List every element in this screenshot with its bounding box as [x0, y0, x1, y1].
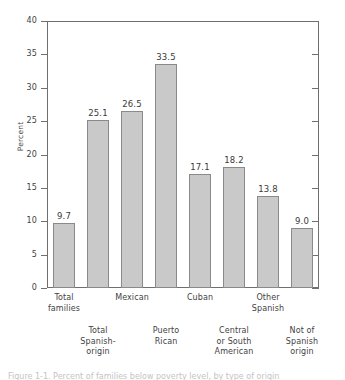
bar	[291, 228, 313, 288]
x-axis-category-label: TotalSpanish-origin	[71, 326, 125, 358]
y-tick-mark-left	[41, 221, 47, 222]
x-axis-category-label: Mexican	[105, 293, 159, 304]
y-tick-mark-left	[41, 188, 47, 189]
x-axis-category-label-line: Rican	[139, 337, 193, 348]
x-axis-category-label-line: origin	[275, 347, 329, 358]
y-tick-mark-right	[312, 21, 319, 22]
bar	[121, 111, 143, 288]
bar	[155, 64, 177, 288]
y-tick-mark-right	[312, 288, 319, 289]
y-tick-mark-right	[312, 54, 319, 55]
y-tick-mark-left	[41, 288, 47, 289]
y-tick-label: 0	[3, 283, 37, 292]
x-axis-category-label-line: Not of	[275, 326, 329, 337]
y-tick-mark-right	[312, 255, 319, 256]
y-tick-mark-left	[41, 255, 47, 256]
x-axis-category-label: Totalfamilies	[37, 293, 91, 314]
x-axis-category-label-line: Spanish	[241, 304, 295, 315]
bar	[189, 174, 211, 288]
y-tick-label: 10	[3, 216, 37, 225]
x-axis-category-label-line: Mexican	[105, 293, 159, 304]
x-axis-category-label-line: Cuban	[173, 293, 227, 304]
x-axis-category-label-line: origin	[71, 347, 125, 358]
y-tick-mark-right	[312, 188, 319, 189]
x-axis-category-label-line: or South	[207, 337, 261, 348]
y-tick-label: 40	[3, 16, 37, 25]
figure-caption-sliver: Figure 1-1. Percent of families below po…	[8, 372, 338, 380]
x-axis-category-label-line: families	[37, 304, 91, 315]
bar-value-label: 18.2	[212, 155, 256, 165]
x-axis-category-label-line: Central	[207, 326, 261, 337]
bar	[87, 120, 109, 288]
x-axis-category-label: PuertoRican	[139, 326, 193, 347]
y-tick-mark-right	[312, 88, 319, 89]
y-tick-label: 30	[3, 83, 37, 92]
bar-chart-figure: Percent 0510152025303540 9.725.126.533.5…	[0, 0, 345, 380]
x-axis-category-label: Cuban	[173, 293, 227, 304]
bar-value-label: 33.5	[144, 52, 188, 62]
x-axis-category-label-line: American	[207, 347, 261, 358]
bar	[257, 196, 279, 288]
x-axis-category-label: OtherSpanish	[241, 293, 295, 314]
y-tick-mark-left	[41, 121, 47, 122]
y-tick-mark-right	[312, 121, 319, 122]
bar-value-label: 9.0	[280, 216, 324, 226]
y-tick-label: 15	[3, 183, 37, 192]
y-tick-mark-right	[312, 155, 319, 156]
y-tick-mark-left	[41, 54, 47, 55]
y-tick-label: 25	[3, 116, 37, 125]
y-tick-mark-left	[41, 88, 47, 89]
x-axis-category-label: Not ofSpanishorigin	[275, 326, 329, 358]
bar-value-label: 9.7	[42, 211, 86, 221]
bar-value-label: 25.1	[76, 108, 120, 118]
bar-value-label: 26.5	[110, 99, 154, 109]
bar-value-label: 13.8	[246, 184, 290, 194]
x-axis-category-label-line: Spanish	[275, 337, 329, 348]
x-axis-category-label-line: Spanish-	[71, 337, 125, 348]
y-tick-label: 5	[3, 250, 37, 259]
x-axis-category-label-line: Puerto	[139, 326, 193, 337]
bar	[53, 223, 75, 288]
y-tick-label: 20	[3, 150, 37, 159]
x-axis-category-label: Centralor SouthAmerican	[207, 326, 261, 358]
y-tick-mark-left	[41, 21, 47, 22]
y-tick-mark-left	[41, 155, 47, 156]
x-axis-category-label-line: Total	[71, 326, 125, 337]
bar	[223, 167, 245, 288]
x-axis-category-label-line: Total	[37, 293, 91, 304]
x-axis-category-label-line: Other	[241, 293, 295, 304]
y-tick-label: 35	[3, 49, 37, 58]
